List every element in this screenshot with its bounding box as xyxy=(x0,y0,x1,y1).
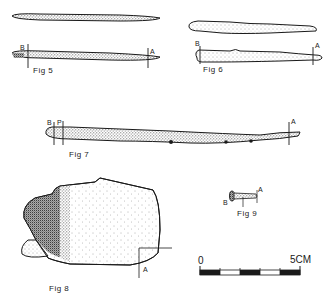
archaeological-drawing-plate: B A Fig 5 B A Fig 6 B P A Fig 7 A Fig 8 … xyxy=(0,0,329,301)
fig9-marker-b: B xyxy=(223,199,228,206)
fig6-top-view xyxy=(189,21,316,34)
fig5-marker-b: B xyxy=(20,44,25,51)
plate-svg xyxy=(0,0,329,301)
fig8-drawing xyxy=(22,178,172,278)
fig7-label: Fig 7 xyxy=(69,151,89,159)
fig6-marker-b: B xyxy=(195,40,200,47)
fig8-marker-a: A xyxy=(143,266,148,273)
fig7-marker-a: A xyxy=(291,118,296,125)
fig5-side-view xyxy=(12,51,160,60)
fig5-marker-a: A xyxy=(150,48,155,55)
fig7-drawing xyxy=(46,121,300,145)
fig6-label: Fig 6 xyxy=(203,66,223,74)
fig5-drawing xyxy=(12,14,160,68)
fig9-shaft xyxy=(234,193,257,199)
fig7-rod xyxy=(46,127,300,143)
fig6-marker-a: A xyxy=(315,42,320,49)
fig8-label: Fig 8 xyxy=(49,285,69,293)
fig9-label: Fig 9 xyxy=(237,210,257,218)
fig5-top-view xyxy=(12,14,160,21)
fig6-side-view xyxy=(196,50,322,63)
fig5-label: Fig 5 xyxy=(33,67,53,75)
fig6-drawing xyxy=(189,21,322,65)
scale-bar xyxy=(200,266,300,275)
fig7-marker-p: P xyxy=(57,119,62,126)
fig7-marker-b: B xyxy=(47,119,52,126)
fig9-marker-a: A xyxy=(258,186,263,193)
scale-end-label: 5CM xyxy=(290,255,311,265)
scale-start-label: 0 xyxy=(198,256,204,266)
fig9-drawing xyxy=(230,190,258,207)
